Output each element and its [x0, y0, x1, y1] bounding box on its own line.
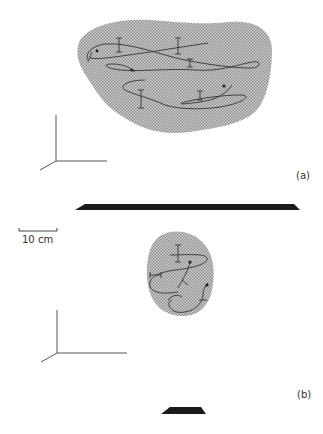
panel-a-region: [77, 20, 272, 133]
track-endpoint: [188, 260, 191, 263]
scale-bar: [19, 228, 57, 231]
scale-bar-label: 10 cm: [22, 234, 53, 245]
panel-b-region: [147, 232, 214, 317]
panel-a-axes: [40, 115, 107, 170]
panel-b-axes: [41, 310, 127, 362]
panel-b-platform: [161, 407, 206, 414]
panel-a-platform: [75, 204, 300, 210]
track-endpoint: [130, 68, 133, 71]
panel-b-label: (b): [297, 389, 311, 400]
track-endpoint: [222, 84, 225, 87]
track-endpoint: [205, 283, 208, 286]
track-endpoint: [96, 50, 99, 53]
panel-a-label: (a): [296, 170, 310, 181]
figure-canvas: [0, 0, 323, 434]
